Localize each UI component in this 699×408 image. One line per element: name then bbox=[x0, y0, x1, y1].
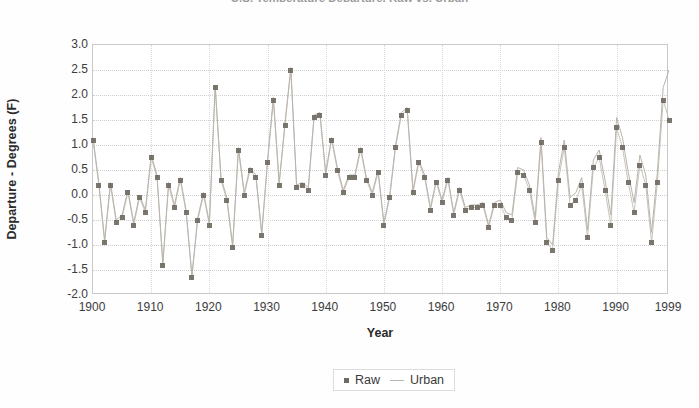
data-point bbox=[544, 240, 549, 245]
y-tick-label: 1.0 bbox=[48, 138, 88, 150]
chart-title: U.S. Temperature Departure, Raw vs. Urba… bbox=[0, 0, 699, 2]
x-tick-label: 1930 bbox=[242, 300, 292, 314]
data-point bbox=[550, 248, 555, 253]
data-point bbox=[125, 190, 130, 195]
data-point bbox=[242, 193, 247, 198]
x-tick-label: 1940 bbox=[300, 300, 350, 314]
data-point bbox=[469, 205, 474, 210]
data-point bbox=[579, 183, 584, 188]
y-axis-title: Departure - Degrees (F) bbox=[2, 46, 22, 292]
x-tick-label: 1970 bbox=[474, 300, 524, 314]
legend: Raw Urban bbox=[333, 369, 455, 391]
x-tick-label: 1960 bbox=[416, 300, 466, 314]
data-point bbox=[620, 145, 625, 150]
data-point bbox=[643, 183, 648, 188]
data-point bbox=[312, 115, 317, 120]
data-point bbox=[556, 178, 561, 183]
x-axis-tick-labels: 1900191019201930194019501960197019801990… bbox=[0, 300, 699, 318]
data-point bbox=[288, 68, 293, 73]
data-point bbox=[451, 213, 456, 218]
y-tick-label: -2.0 bbox=[48, 288, 88, 300]
data-point bbox=[405, 108, 410, 113]
data-point bbox=[166, 183, 171, 188]
data-point bbox=[149, 155, 154, 160]
data-point bbox=[428, 208, 433, 213]
y-tick-label: -1.0 bbox=[48, 238, 88, 250]
x-tick-label: 1980 bbox=[532, 300, 582, 314]
data-point bbox=[265, 160, 270, 165]
data-point bbox=[207, 223, 212, 228]
legend-entry-raw[interactable]: Raw bbox=[344, 373, 380, 387]
legend-label-urban: Urban bbox=[410, 373, 444, 387]
data-point bbox=[486, 225, 491, 230]
data-point bbox=[393, 145, 398, 150]
data-point bbox=[184, 210, 189, 215]
data-point bbox=[480, 203, 485, 208]
data-point bbox=[440, 200, 445, 205]
data-point bbox=[457, 188, 462, 193]
y-tick-label: 2.0 bbox=[48, 88, 88, 100]
data-point bbox=[603, 188, 608, 193]
data-point bbox=[248, 168, 253, 173]
data-point bbox=[434, 180, 439, 185]
data-point bbox=[661, 98, 666, 103]
y-tick-label: -0.5 bbox=[48, 213, 88, 225]
data-point bbox=[178, 178, 183, 183]
data-point bbox=[283, 123, 288, 128]
data-point bbox=[219, 178, 224, 183]
data-point bbox=[189, 275, 194, 280]
y-tick-label: 2.5 bbox=[48, 63, 88, 75]
data-point bbox=[114, 220, 119, 225]
data-point bbox=[317, 113, 322, 118]
y-tick-label: -1.5 bbox=[48, 263, 88, 275]
data-point bbox=[492, 203, 497, 208]
data-point bbox=[591, 165, 596, 170]
x-axis-title: Year bbox=[92, 326, 668, 340]
data-point bbox=[498, 203, 503, 208]
x-tick-label: 1900 bbox=[67, 300, 117, 314]
data-point bbox=[475, 205, 480, 210]
data-point bbox=[300, 183, 305, 188]
data-point bbox=[562, 145, 567, 150]
data-point bbox=[515, 170, 520, 175]
data-point bbox=[294, 185, 299, 190]
data-point bbox=[597, 155, 602, 160]
data-point bbox=[131, 223, 136, 228]
data-point bbox=[201, 193, 206, 198]
data-point bbox=[143, 210, 148, 215]
temperature-departure-chart: U.S. Temperature Departure, Raw vs. Urba… bbox=[0, 0, 699, 408]
y-tick-label: 0.5 bbox=[48, 163, 88, 175]
data-point bbox=[504, 215, 509, 220]
data-point bbox=[160, 263, 165, 268]
data-point bbox=[585, 235, 590, 240]
data-point bbox=[445, 178, 450, 183]
data-point bbox=[509, 218, 514, 223]
data-point bbox=[358, 148, 363, 153]
data-point bbox=[422, 175, 427, 180]
y-axis-tick-labels: 3.02.52.01.51.00.50.0-0.5-1.0-1.5-2.0 bbox=[44, 0, 88, 408]
data-point bbox=[416, 160, 421, 165]
data-point bbox=[277, 183, 282, 188]
data-point bbox=[649, 240, 654, 245]
data-point bbox=[172, 205, 177, 210]
y-axis-title-text: Departure - Degrees (F) bbox=[5, 98, 19, 239]
data-point bbox=[335, 168, 340, 173]
data-point bbox=[632, 210, 637, 215]
data-point bbox=[230, 245, 235, 250]
data-point bbox=[91, 138, 96, 143]
x-tick-label: 1920 bbox=[183, 300, 233, 314]
data-point bbox=[195, 218, 200, 223]
data-point bbox=[323, 173, 328, 178]
x-tick-label: 1990 bbox=[591, 300, 641, 314]
data-point bbox=[381, 223, 386, 228]
legend-label-raw: Raw bbox=[355, 373, 380, 387]
data-point bbox=[96, 183, 101, 188]
data-point bbox=[637, 163, 642, 168]
data-point bbox=[236, 148, 241, 153]
y-tick-label: 3.0 bbox=[48, 38, 88, 50]
data-point bbox=[108, 183, 113, 188]
data-point bbox=[387, 195, 392, 200]
data-point bbox=[521, 173, 526, 178]
data-point bbox=[376, 170, 381, 175]
legend-entry-urban[interactable]: Urban bbox=[390, 373, 444, 387]
